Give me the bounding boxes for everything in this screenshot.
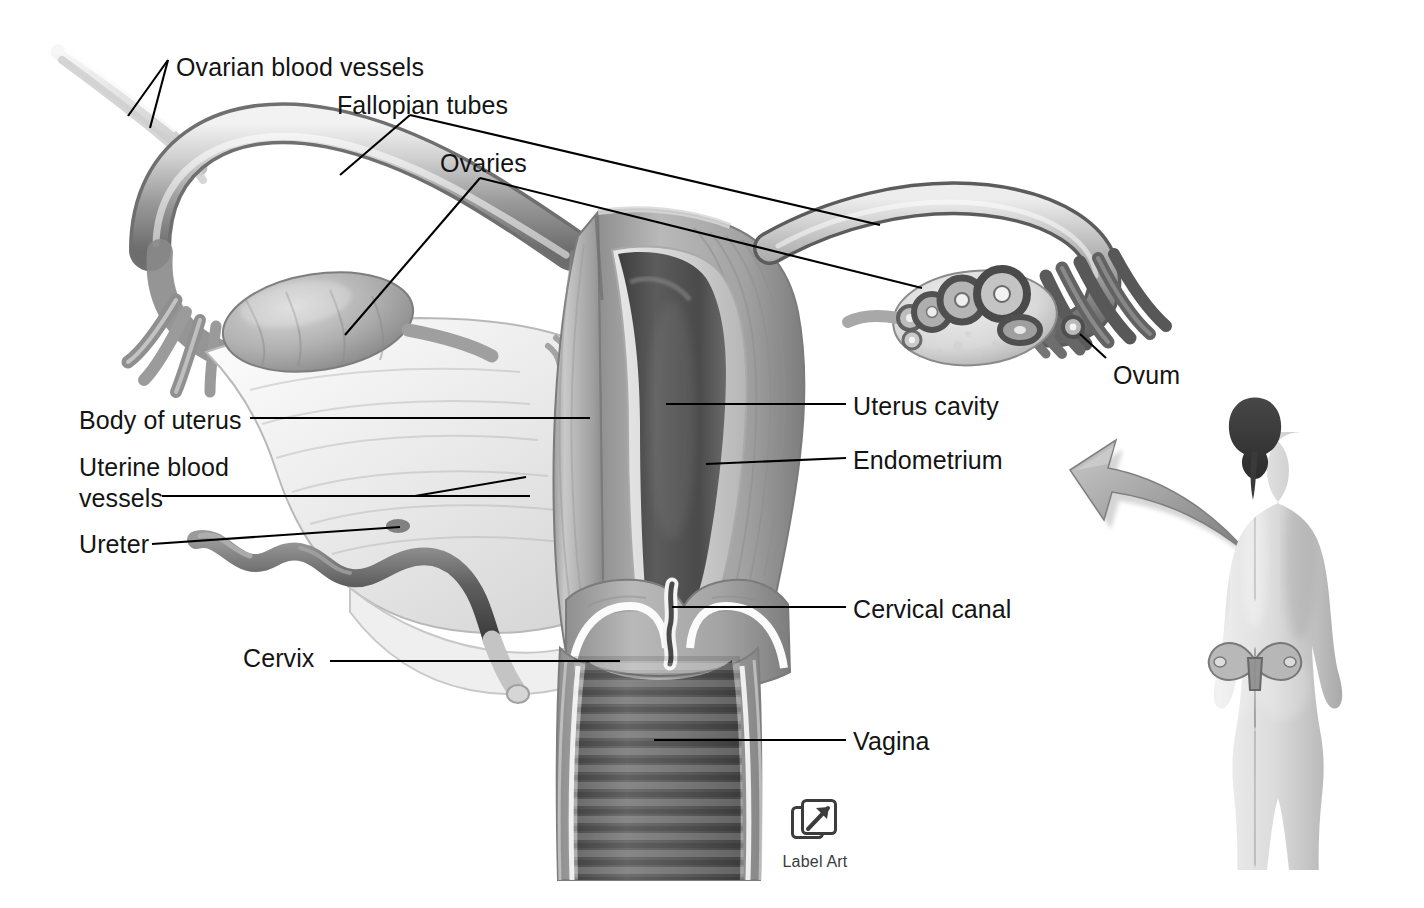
label-fallopian-tubes: Fallopian tubes [337, 90, 508, 120]
label-cervix: Cervix [243, 643, 314, 673]
label-vagina: Vagina [853, 726, 930, 756]
leader-fallopian-tubes-left [340, 115, 410, 175]
label-ovarian-blood-vessels: Ovarian blood vessels [176, 52, 424, 82]
diagram-canvas: Ovarian blood vessels Fallopian tubes Ov… [0, 0, 1424, 908]
leader-endometrium [706, 458, 846, 464]
leader-ovarian-blood-vessels-a [128, 60, 168, 116]
label-body-of-uterus: Body of uterus [79, 405, 242, 435]
arrow-up-right-in-square-icon [789, 796, 841, 848]
label-cervical-canal: Cervical canal [853, 594, 1011, 624]
leader-ovarian-blood-vessels-b [150, 60, 168, 128]
leader-ovaries-left [345, 178, 480, 335]
label-art-watermark: Label Art [776, 796, 854, 871]
label-endometrium: Endometrium [853, 445, 1003, 475]
label-art-watermark-text: Label Art [776, 853, 854, 871]
leader-ovum [1080, 334, 1106, 358]
leader-ureter [152, 527, 400, 544]
leader-uterine-blood-vessels-b [415, 477, 526, 496]
label-uterine-blood-vessels: Uterine blood vessels [79, 452, 269, 514]
label-ovaries: Ovaries [440, 148, 527, 178]
label-ovum: Ovum [1113, 360, 1180, 390]
label-ureter: Ureter [79, 529, 149, 559]
label-uterus-cavity: Uterus cavity [853, 391, 999, 421]
leader-ovaries-right [480, 178, 922, 288]
